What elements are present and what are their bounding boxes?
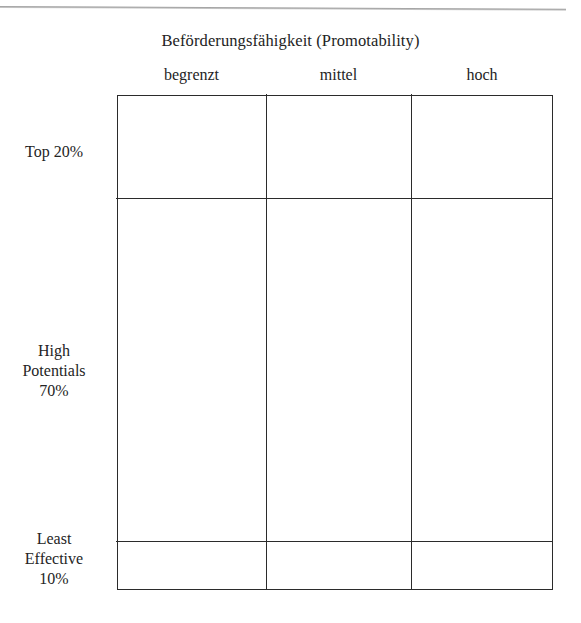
cell-leasteffective-begrenzt[interactable] [118, 541, 266, 589]
header-rule [0, 6, 566, 11]
figure-title: Beförderungsfähigkeit (Promotability) [0, 31, 581, 51]
cell-top20-begrenzt[interactable] [118, 96, 266, 198]
row-label-top-20: Top 20% [0, 142, 108, 162]
cell-top20-mittel[interactable] [266, 96, 411, 198]
column-header-begrenzt: begrenzt [117, 66, 266, 84]
row-label-line: 70% [0, 381, 108, 401]
row-label-high-potentials: High Potentials 70% [0, 341, 108, 401]
column-header-mittel: mittel [266, 66, 411, 84]
cell-leasteffective-hoch[interactable] [411, 541, 551, 589]
cell-highpotentials-hoch[interactable] [411, 198, 551, 541]
cell-highpotentials-mittel[interactable] [266, 198, 411, 541]
row-label-line: Potentials [0, 361, 108, 381]
cell-highpotentials-begrenzt[interactable] [118, 198, 266, 541]
row-label-line: High [0, 341, 108, 361]
column-header-hoch: hoch [411, 66, 553, 84]
row-label-least-effective: Least Effective 10% [0, 529, 108, 589]
cell-top20-hoch[interactable] [411, 96, 551, 198]
row-label-line: Least [0, 529, 108, 549]
promotability-grid [117, 95, 553, 590]
row-label-line: Effective [0, 549, 108, 569]
row-label-line: Top 20% [0, 142, 108, 162]
cell-leasteffective-mittel[interactable] [266, 541, 411, 589]
row-label-line: 10% [0, 569, 108, 589]
